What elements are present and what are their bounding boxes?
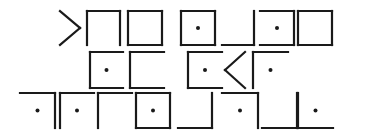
- cipher-glyph-top-left-dotted: [253, 52, 288, 88]
- glyph-dot: [36, 109, 40, 113]
- cipher-glyph-open-right-dotted: [188, 52, 222, 88]
- glyph-stroke: [225, 70, 245, 88]
- cipher-glyph-bottom-right: [262, 93, 297, 128]
- cipher-glyph-chevron-left: [225, 52, 245, 88]
- glyph-dot: [269, 68, 273, 72]
- cipher-glyph-open-bottom: [87, 11, 120, 45]
- glyph-dot: [203, 68, 207, 72]
- cipher-glyph-open-left-dotted: [260, 11, 294, 45]
- cipher-glyph-open-right-dotted: [90, 52, 123, 88]
- glyph-stroke: [60, 11, 80, 28]
- glyph-dot: [75, 109, 79, 113]
- cipher-glyph-top-left-dotted: [60, 93, 94, 128]
- pigpen-cipher-canvas: [0, 0, 382, 132]
- cipher-glyph-open-right: [130, 52, 164, 88]
- glyph-stroke: [60, 28, 80, 45]
- glyph-stroke: [225, 52, 245, 70]
- glyph-dot: [105, 68, 109, 72]
- cipher-glyph-box: [128, 11, 162, 45]
- cipher-glyph-bottom-right: [222, 11, 254, 45]
- cipher-glyph-bottom-right: [178, 93, 212, 128]
- glyph-dot: [314, 109, 318, 113]
- glyph-dot: [275, 26, 279, 30]
- cipher-glyph-top-left: [98, 93, 132, 128]
- cipher-glyph-box: [298, 11, 332, 45]
- glyph-dot: [151, 109, 155, 113]
- glyph-dot: [238, 109, 242, 113]
- glyph-dot: [196, 26, 200, 30]
- cipher-glyph-top-right-dotted: [222, 93, 258, 128]
- cipher-glyph-chevron-right: [60, 11, 80, 45]
- cipher-glyph-top-right-dotted: [20, 93, 55, 128]
- cipher-glyph-bottom-left-dotted: [298, 93, 333, 128]
- cipher-glyph-box-dotted: [136, 93, 170, 128]
- cipher-glyph-box-dotted: [181, 11, 215, 45]
